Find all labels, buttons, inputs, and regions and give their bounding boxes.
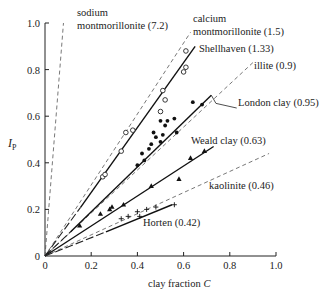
- series-label: Shellhaven (1.33): [199, 43, 274, 55]
- london-clay-point: [159, 119, 163, 123]
- y-tick-label: 0.6: [27, 111, 40, 122]
- x-tick-label: 0.8: [223, 260, 236, 271]
- shellhaven-point: [130, 128, 135, 133]
- series-label: montmorillonite (1.5): [193, 26, 284, 38]
- x-tick-label: 0: [42, 260, 47, 271]
- line-weald-clay: [45, 146, 214, 256]
- series-label: Weald clay (0.63): [191, 135, 266, 147]
- x-tick-label: 0.6: [177, 260, 190, 271]
- plasticity-activity-chart: 00.20.40.60.81.000.20.40.60.81.0 sodiumm…: [0, 0, 334, 297]
- series-label: montmorillonite (7.2): [77, 20, 168, 32]
- weald-clay-point: [176, 176, 181, 181]
- line-london-clay: [70, 95, 211, 232]
- shellhaven-point: [161, 88, 166, 93]
- shellhaven-point: [158, 109, 163, 114]
- london-clay-point: [152, 131, 156, 135]
- london-clay-point: [159, 140, 163, 144]
- series-label: kaolinite (0.46): [209, 180, 274, 192]
- shellhaven-point: [119, 149, 124, 154]
- y-tick-label: 0: [35, 251, 40, 262]
- y-tick-label: 0.4: [27, 158, 41, 169]
- y-tick-label: 0.8: [27, 65, 40, 76]
- london-clay-point: [161, 133, 165, 137]
- london-clay-point: [149, 142, 153, 146]
- shellhaven-point: [124, 130, 129, 135]
- shellhaven-point: [184, 65, 189, 70]
- london-clay-point: [147, 147, 151, 151]
- london-clay-point: [140, 152, 144, 156]
- shellhaven-point: [184, 49, 189, 54]
- shellhaven-point: [103, 172, 108, 177]
- x-tick-label: 1.0: [269, 260, 282, 271]
- y-tick-label: 0.2: [27, 204, 40, 215]
- shellhaven-point: [163, 98, 168, 103]
- horten-point: [153, 205, 158, 210]
- line-sodium-montmorillonite: [45, 23, 63, 256]
- series-label: sodium: [77, 7, 108, 18]
- line-kaolinite: [45, 153, 269, 256]
- london-clay-point: [166, 119, 170, 123]
- london-clay-point: [200, 103, 204, 107]
- london-clay-point: [172, 117, 176, 121]
- x-tick-label: 0.2: [85, 260, 98, 271]
- x-axis-title: clay fraction C: [148, 278, 211, 289]
- london-clay-point: [136, 163, 140, 167]
- london-clay-point: [191, 100, 195, 104]
- series-label: illite (0.9): [254, 60, 296, 72]
- y-tick-label: 1.0: [27, 18, 40, 29]
- line-shellhaven-extension: [45, 207, 81, 256]
- london-clay-point: [154, 135, 158, 139]
- weald-clay-point: [109, 204, 114, 209]
- series-labels: sodiummontmorillonite (7.2)calciummontmo…: [77, 7, 319, 229]
- weald-clay-point: [188, 155, 193, 160]
- london-clay-point: [175, 131, 179, 135]
- horten-point: [135, 209, 140, 214]
- series-label: Horten (0.42): [143, 217, 201, 229]
- london-clay-leader: [211, 95, 236, 108]
- y-axis-title: IP: [7, 136, 17, 152]
- horten-point: [144, 207, 149, 212]
- series-label: calcium: [193, 13, 226, 24]
- series-label: London clay (0.95): [238, 97, 319, 109]
- x-tick-label: 0.4: [131, 260, 145, 271]
- london-clay-point: [163, 124, 167, 128]
- data-points: [77, 49, 207, 228]
- london-clay-point: [142, 159, 146, 163]
- weald-clay-point: [98, 211, 103, 216]
- horten-point: [126, 214, 131, 219]
- horten-point: [172, 202, 177, 207]
- line-london-clay-extension: [45, 232, 70, 256]
- shellhaven-point: [181, 70, 186, 75]
